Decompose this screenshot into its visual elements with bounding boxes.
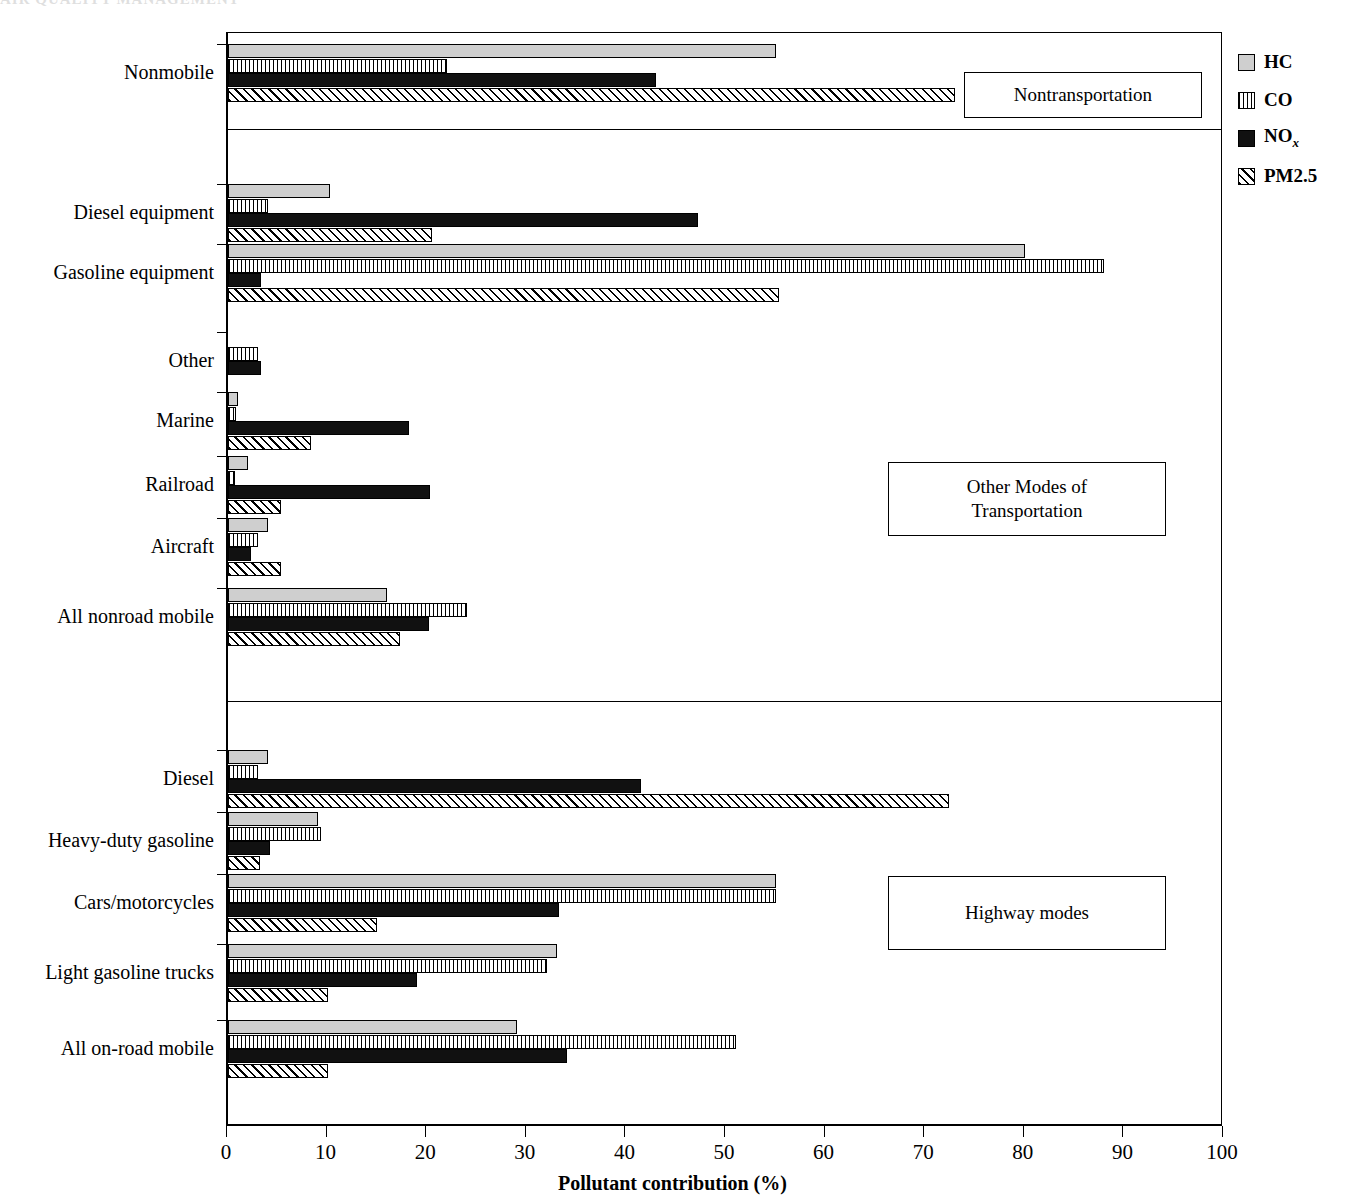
- bar-hc: [228, 812, 318, 826]
- annotation-other-modes-of-transportation: Other Modes ofTransportation: [888, 462, 1166, 536]
- bar-pm25: [228, 918, 377, 932]
- y-axis-label-diesel-equipment: Diesel equipment: [0, 202, 214, 222]
- bar-nox: [228, 547, 251, 561]
- x-axis-tick: [724, 1126, 725, 1137]
- cropped-header-text: AIR QUALITY MANAGEMENT: [0, 0, 760, 14]
- y-axis-label-all-nonroad-mobile: All nonroad mobile: [0, 606, 214, 626]
- y-axis-tick: [217, 44, 228, 45]
- x-axis-tick-label: 30: [495, 1140, 555, 1165]
- bar-nox: [228, 421, 409, 435]
- legend-label-hc: HC: [1264, 51, 1293, 73]
- x-axis-tick-label: 90: [1092, 1140, 1152, 1165]
- bar-pm25: [228, 794, 949, 808]
- bar-co: [228, 407, 236, 421]
- legend-label-nox: NOx: [1264, 125, 1299, 151]
- bar-nox: [228, 973, 417, 987]
- legend-label-co: CO: [1264, 89, 1293, 111]
- annotation-text: Other Modes ofTransportation: [967, 475, 1087, 523]
- legend-item-nox: NOx: [1238, 124, 1317, 152]
- bar-hc: [228, 750, 268, 764]
- x-axis-tick-label: 60: [794, 1140, 854, 1165]
- y-axis-tick: [217, 944, 228, 945]
- bar-co: [228, 59, 447, 73]
- bar-hc: [228, 184, 330, 198]
- bar-co: [228, 603, 467, 617]
- bar-co: [228, 199, 268, 213]
- y-axis-tick: [217, 392, 228, 393]
- bar-nox: [228, 1049, 567, 1063]
- y-axis-tick: [217, 184, 228, 185]
- x-axis-tick: [226, 1126, 227, 1137]
- x-axis-tick: [923, 1126, 924, 1137]
- y-axis-label-nonmobile: Nonmobile: [0, 62, 214, 82]
- x-axis-tick: [525, 1126, 526, 1137]
- y-axis-label-marine: Marine: [0, 410, 214, 430]
- y-axis-label-other: Other: [0, 350, 214, 370]
- x-axis-tick: [1222, 1126, 1223, 1137]
- bar-pm25: [228, 1064, 328, 1078]
- bar-pm25: [228, 500, 281, 514]
- bar-pm25: [228, 88, 955, 102]
- bar-nox: [228, 273, 261, 287]
- legend-item-co: CO: [1238, 86, 1317, 114]
- y-axis-tick: [217, 332, 228, 333]
- y-axis-tick: [217, 518, 228, 519]
- bar-pm25: [228, 562, 281, 576]
- bar-hc: [228, 392, 238, 406]
- y-axis-label-heavy-duty-gasoline: Heavy-duty gasoline: [0, 830, 214, 850]
- bar-co: [228, 1035, 736, 1049]
- bar-nox: [228, 841, 270, 855]
- y-axis-label-cars-motorcycles: Cars/motorcycles: [0, 892, 214, 912]
- annotation-highway-modes: Highway modes: [888, 876, 1166, 950]
- bar-co: [228, 533, 258, 547]
- bar-nox: [228, 617, 429, 631]
- y-axis-label-aircraft: Aircraft: [0, 536, 214, 556]
- bar-co: [228, 259, 1104, 273]
- x-axis-tick-label: 100: [1192, 1140, 1252, 1165]
- x-axis-tick-label: 20: [395, 1140, 455, 1165]
- y-axis-tick: [217, 588, 228, 589]
- x-axis-tick-label: 0: [196, 1140, 256, 1165]
- x-axis-tick-label: 80: [993, 1140, 1053, 1165]
- bar-co: [228, 347, 258, 361]
- chart-legend: HC CO NOx PM2.5: [1238, 48, 1317, 200]
- bar-hc: [228, 874, 776, 888]
- y-axis-tick: [217, 812, 228, 813]
- y-axis-tick: [217, 244, 228, 245]
- bar-hc: [228, 1020, 517, 1034]
- legend-label-pm25: PM2.5: [1264, 165, 1317, 187]
- plot-area: [226, 32, 1222, 1126]
- bar-pm25: [228, 856, 260, 870]
- bar-nox: [228, 361, 261, 375]
- bar-nox: [228, 485, 430, 499]
- bar-pm25: [228, 288, 779, 302]
- bar-nox: [228, 779, 641, 793]
- bar-hc: [228, 244, 1025, 258]
- legend-swatch-hc-icon: [1238, 54, 1255, 71]
- legend-item-pm25: PM2.5: [1238, 162, 1317, 190]
- x-axis-tick-label: 10: [296, 1140, 356, 1165]
- x-axis-title: Pollutant contribution (%): [0, 1172, 1345, 1195]
- bar-nox: [228, 213, 698, 227]
- bar-co: [228, 827, 321, 841]
- bar-pm25: [228, 228, 432, 242]
- y-axis-tick: [217, 1020, 228, 1021]
- group-separator: [228, 129, 1221, 130]
- y-axis-label-gasoline-equipment: Gasoline equipment: [0, 262, 214, 282]
- x-axis-tick-label: 40: [594, 1140, 654, 1165]
- x-axis-tick-label: 70: [893, 1140, 953, 1165]
- bar-pm25: [228, 988, 328, 1002]
- x-axis-tick: [824, 1126, 825, 1137]
- bar-hc: [228, 518, 268, 532]
- bar-hc: [228, 588, 387, 602]
- bar-hc: [228, 944, 557, 958]
- bar-nox: [228, 73, 656, 87]
- x-axis-tick: [1122, 1126, 1123, 1137]
- y-axis-tick: [217, 874, 228, 875]
- y-axis-label-light-gasoline-trucks: Light gasoline trucks: [0, 962, 214, 982]
- bar-co: [228, 959, 547, 973]
- legend-swatch-nox-icon: [1238, 130, 1255, 147]
- bar-co: [228, 471, 235, 485]
- x-axis-tick: [624, 1126, 625, 1137]
- y-axis-label-railroad: Railroad: [0, 474, 214, 494]
